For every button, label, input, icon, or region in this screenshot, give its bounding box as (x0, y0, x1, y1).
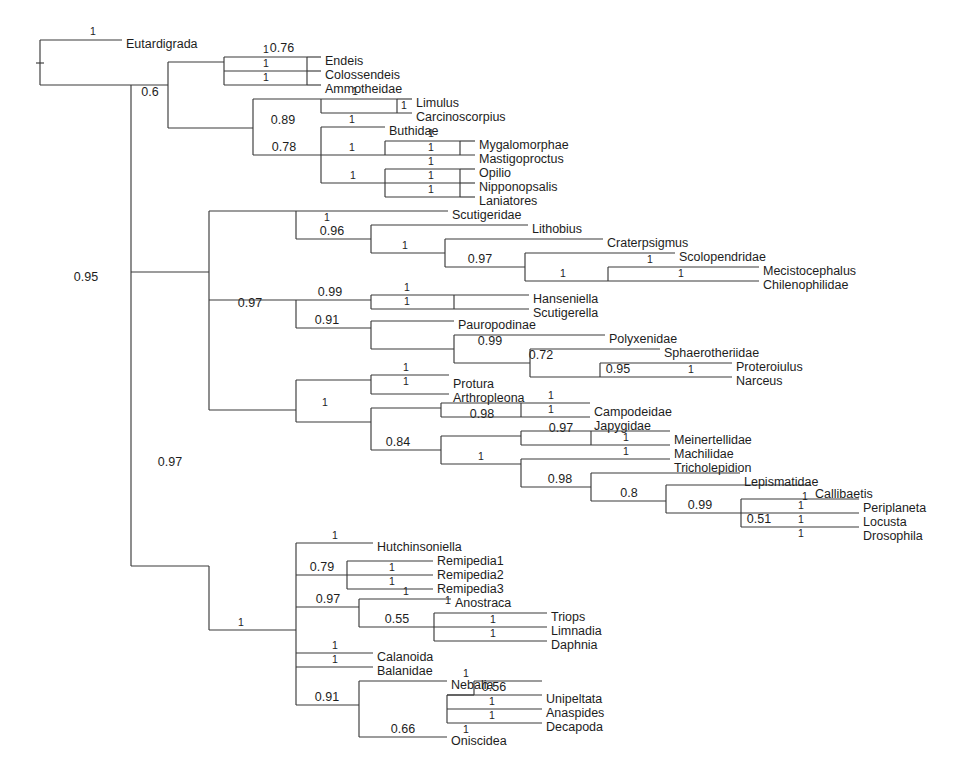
node-support-value: 1 (332, 639, 338, 651)
node-support-value: 0.66 (391, 722, 415, 736)
node-support-value: 0.84 (386, 435, 410, 449)
node-support-value: 1 (404, 295, 410, 307)
taxon-label: Mastigoproctus (479, 152, 564, 166)
node-support-value: 1 (428, 141, 434, 153)
node-support-value: 0.97 (549, 421, 573, 435)
node-support-value: 0.99 (478, 334, 502, 348)
taxon-label: Mygalomorphae (479, 138, 569, 152)
taxon-label: Limulus (416, 96, 459, 110)
node-support-value: 1 (401, 99, 407, 111)
taxon-label: Scolopendridae (679, 250, 766, 264)
node-support-value: 1 (623, 445, 629, 457)
node-support-value: 1 (238, 616, 244, 628)
node-support-value: 0.78 (272, 140, 296, 154)
node-support-value: 1 (389, 575, 395, 587)
node-support-value: 0.96 (320, 224, 344, 238)
taxon-label: Narceus (736, 374, 783, 388)
tree-branches (36, 40, 859, 737)
node-support-value: 1 (349, 141, 355, 153)
node-support-value: 1 (263, 43, 269, 55)
node-support-value: 0.6 (141, 85, 158, 99)
taxon-label: Buthidae (389, 124, 438, 138)
taxon-label: Daphnia (551, 638, 598, 652)
taxon-label: Scutigeridae (452, 208, 522, 222)
node-support-value: 0.95 (606, 362, 630, 376)
node-support-value: 0.98 (470, 407, 494, 421)
taxon-label: Periplaneta (863, 501, 926, 515)
taxon-label: Lepismatidae (744, 475, 818, 489)
taxon-label: Meinertellidae (674, 433, 752, 447)
taxon-label: Balanidae (377, 664, 433, 678)
taxon-label: Anaspides (546, 706, 604, 720)
node-support-value: 1 (404, 281, 410, 293)
node-support-value: 1 (428, 155, 434, 167)
node-support-value: 1 (403, 585, 409, 597)
node-support-value: 1 (478, 450, 484, 462)
node-support-value: 0.8 (620, 486, 637, 500)
taxon-label: Lithobius (532, 222, 582, 236)
taxon-label: Arthropleona (453, 391, 525, 405)
node-support-value: 1 (332, 529, 338, 541)
taxon-label: Machilidae (674, 447, 734, 461)
node-support-value: 0.99 (318, 285, 342, 299)
node-support-value: 1 (548, 403, 554, 415)
node-support-value: 1 (428, 169, 434, 181)
node-support-value: 0.97 (468, 252, 492, 266)
node-support-value: 0.79 (310, 560, 334, 574)
node-support-value: 0.91 (315, 690, 339, 704)
node-support-value: 1 (560, 267, 566, 279)
node-support-value: 0.89 (271, 113, 295, 127)
node-support-value: 1 (489, 695, 495, 707)
node-support-value: 1 (263, 57, 269, 69)
taxon-label: Locusta (863, 515, 907, 529)
node-support-value: 1 (798, 527, 804, 539)
node-support-value: 0.98 (548, 472, 572, 486)
taxon-label: Mecistocephalus (763, 264, 856, 278)
node-support-value: 1 (350, 169, 356, 181)
node-support-value: 1 (349, 113, 355, 125)
node-support-value: 0.97 (238, 296, 262, 310)
node-support-value: 0.91 (315, 313, 339, 327)
taxon-label: Remipedia3 (437, 582, 504, 596)
node-support-value: 1 (463, 667, 469, 679)
node-support-value: 0.76 (270, 41, 294, 55)
taxon-label: Eutardigrada (126, 37, 198, 51)
taxon-label: Limnadia (551, 624, 602, 638)
taxon-label: Oniscidea (451, 734, 507, 748)
taxon-label: Hutchinsoniella (377, 540, 462, 554)
node-support-value: 1 (688, 363, 694, 375)
taxon-label: Hanseniella (533, 292, 598, 306)
tree-canvas: 10.950.60.970.760.89111110.78111111110.9… (0, 0, 975, 777)
taxon-label: Sphaerotheriidae (664, 346, 759, 360)
taxon-label: Remipedia1 (437, 554, 504, 568)
node-support-value: 1 (322, 396, 328, 408)
taxon-label: Anostraca (455, 596, 511, 610)
taxon-label: Polyxenidae (609, 332, 677, 346)
taxon-label: Protura (453, 377, 494, 391)
node-support-value: 0.97 (158, 455, 182, 469)
taxon-label: Ammotheidae (325, 82, 402, 96)
node-support-value: 1 (647, 253, 653, 265)
phylogenetic-tree-figure: 10.950.60.970.760.89111110.78111111110.9… (0, 0, 975, 777)
node-support-value: 1 (389, 561, 395, 573)
node-support-value: 1 (324, 211, 330, 223)
taxon-label: Endeis (325, 54, 363, 68)
node-support-value: 0.97 (316, 592, 340, 606)
node-support-value: 1 (403, 375, 409, 387)
node-support-value: 1 (490, 613, 496, 625)
node-support-value: 1 (490, 627, 496, 639)
node-support-value: 1 (798, 499, 804, 511)
node-support-value: 1 (403, 361, 409, 373)
node-support-value: 0.95 (74, 270, 98, 284)
taxon-label: Colossendeis (325, 68, 400, 82)
taxon-label: Calanoida (377, 650, 433, 664)
node-support-value: 0.99 (688, 498, 712, 512)
taxon-label: Callibaetis (815, 487, 873, 501)
taxon-label: Nebalia (451, 678, 493, 692)
node-support-value: 1 (798, 513, 804, 525)
taxon-label: Nipponopsalis (479, 180, 558, 194)
taxon-label: Carcinoscorpius (416, 110, 506, 124)
node-support-value: 1 (263, 71, 269, 83)
taxon-label: Triops (551, 610, 585, 624)
taxon-label: Remipedia2 (437, 568, 504, 582)
